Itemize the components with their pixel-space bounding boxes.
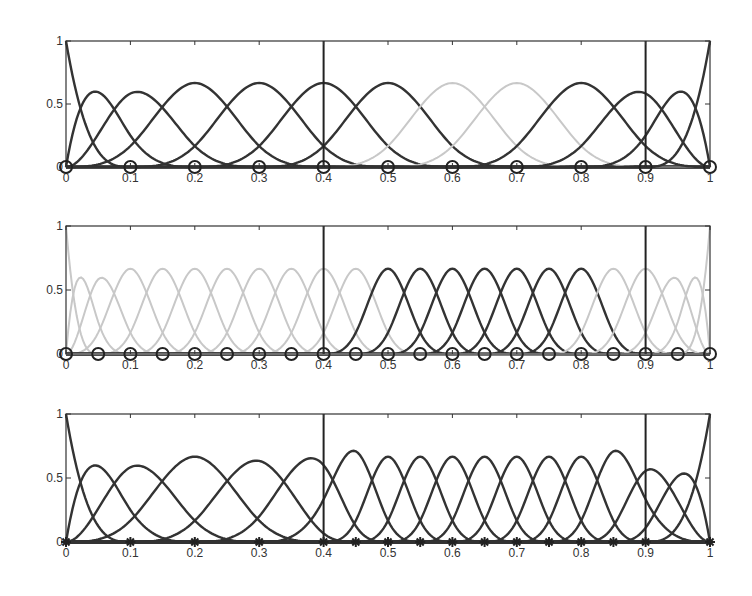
basis-function-curve bbox=[66, 83, 710, 167]
basis-function-curve bbox=[66, 269, 710, 354]
panel-3: 00.10.20.30.40.50.60.70.80.9100.51 bbox=[46, 407, 715, 560]
basis-function-curve bbox=[66, 457, 710, 542]
basis-function-curve bbox=[66, 466, 710, 542]
basis-function-curve bbox=[66, 269, 710, 354]
knot-marker-star bbox=[190, 537, 200, 547]
y-tick-label: 0.5 bbox=[46, 97, 63, 111]
axes-box bbox=[66, 41, 710, 167]
x-tick-label: 0.9 bbox=[637, 546, 654, 560]
basis-function-curve bbox=[66, 269, 710, 354]
basis-function-curve bbox=[66, 83, 710, 167]
knot-marker-star bbox=[383, 537, 393, 547]
basis-function-curve bbox=[66, 269, 710, 354]
basis-function-curve bbox=[66, 41, 710, 167]
basis-function-curve bbox=[66, 465, 710, 542]
basis-function-curve bbox=[66, 92, 710, 167]
x-tick-label: 0.8 bbox=[573, 546, 590, 560]
knot-marker-star bbox=[254, 537, 264, 547]
basis-function-curve bbox=[66, 269, 710, 354]
basis-function-curve bbox=[66, 269, 710, 354]
basis-function-curve bbox=[66, 269, 710, 354]
basis-function-curve bbox=[66, 461, 710, 542]
knot-marker-star bbox=[61, 537, 71, 547]
x-tick-label: 0.6 bbox=[444, 546, 461, 560]
basis-function-curve bbox=[66, 278, 710, 354]
panel-1: 00.10.20.30.40.50.60.70.80.9100.51 bbox=[46, 34, 716, 185]
basis-function-curve bbox=[66, 92, 710, 167]
basis-function-curve bbox=[66, 269, 710, 354]
knot-marker-star bbox=[125, 537, 135, 547]
basis-function-curve bbox=[66, 457, 710, 542]
panel-2: 00.10.20.30.40.50.60.70.80.9100.51 bbox=[46, 219, 716, 372]
knot-marker-star bbox=[576, 537, 586, 547]
basis-function-curve bbox=[66, 83, 710, 167]
knot-marker-star bbox=[705, 537, 715, 547]
basis-function-curve bbox=[66, 277, 710, 354]
basis-function-curve bbox=[66, 277, 710, 354]
basis-function-curve bbox=[66, 451, 710, 542]
y-tick-label: 0.5 bbox=[46, 471, 63, 485]
basis-function-curve bbox=[66, 457, 710, 542]
basis-function-curve bbox=[66, 278, 710, 354]
basis-function-curve bbox=[66, 457, 710, 542]
x-tick-label: 0.1 bbox=[122, 546, 139, 560]
basis-function-curve bbox=[66, 83, 710, 167]
basis-function-curve bbox=[66, 92, 710, 167]
x-tick-label: 0.2 bbox=[186, 546, 203, 560]
basis-function-curve bbox=[66, 269, 710, 354]
basis-function-curve bbox=[66, 92, 710, 167]
x-tick-label: 0.3 bbox=[251, 546, 268, 560]
knot-marker-star bbox=[480, 537, 490, 547]
basis-function-curve bbox=[66, 457, 710, 542]
basis-function-curve bbox=[66, 457, 710, 542]
figure: 00.10.20.30.40.50.60.70.80.9100.5100.10.… bbox=[0, 0, 752, 596]
basis-function-curve bbox=[66, 269, 710, 354]
basis-function-curve bbox=[66, 83, 710, 167]
knot-marker-star bbox=[641, 537, 651, 547]
knot-marker-star bbox=[415, 537, 425, 547]
knot-marker-star bbox=[447, 537, 457, 547]
knot-marker-star bbox=[608, 537, 618, 547]
basis-function-curve bbox=[66, 269, 710, 354]
y-tick-label: 1 bbox=[56, 219, 63, 233]
basis-function-curve bbox=[66, 457, 710, 542]
basis-function-curve bbox=[66, 269, 710, 354]
basis-function-curve bbox=[66, 457, 710, 542]
x-tick-label: 0.5 bbox=[380, 546, 397, 560]
basis-function-curve bbox=[66, 269, 710, 354]
knot-marker-star bbox=[512, 537, 522, 547]
basis-function-curve bbox=[66, 41, 710, 167]
basis-function-curve bbox=[66, 458, 710, 542]
y-tick-label: 0.5 bbox=[46, 283, 63, 297]
basis-function-curve bbox=[66, 269, 710, 354]
basis-function-curve bbox=[66, 269, 710, 354]
x-tick-label: 1 bbox=[707, 546, 714, 560]
basis-function-curve bbox=[66, 83, 710, 167]
knot-marker-star bbox=[319, 537, 329, 547]
y-tick-label: 1 bbox=[56, 34, 63, 48]
x-tick-label: 0.7 bbox=[508, 546, 525, 560]
basis-function-curve bbox=[66, 269, 710, 354]
basis-function-curve bbox=[66, 83, 710, 167]
x-tick-label: 0 bbox=[63, 546, 70, 560]
x-tick-label: 0.4 bbox=[315, 546, 332, 560]
knot-marker-star bbox=[544, 537, 554, 547]
basis-function-curve bbox=[66, 451, 710, 542]
basis-function-curve bbox=[66, 269, 710, 354]
knot-marker-star bbox=[351, 537, 361, 547]
y-tick-label: 1 bbox=[56, 407, 63, 421]
